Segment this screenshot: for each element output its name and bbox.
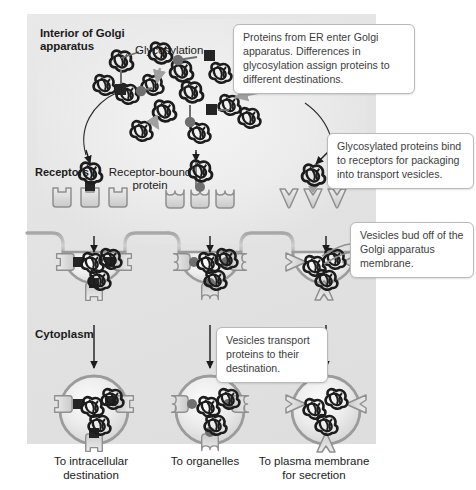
- callout-vesicles-bud-off: Vesicles bud off of the Golgi apparatus …: [350, 222, 474, 278]
- callout-proteins-enter-golgi: Proteins from ER enter Golgi apparatus. …: [233, 24, 415, 94]
- label-glycosylation: Glycosylation: [135, 44, 203, 57]
- destination-label-plasma-membrane: To plasma membrane for secretion: [252, 455, 376, 483]
- destination-label-organelles: To organelles: [158, 455, 252, 469]
- label-cytoplasm: Cytoplasm: [35, 328, 94, 341]
- label-receptors: Receptors: [35, 166, 89, 179]
- callout-vesicles-transport: Vesicles transport proteins to their des…: [216, 327, 328, 383]
- label-interior-of-golgi: Interior of Golgi apparatus: [40, 27, 125, 54]
- label-receptor-bound-protein: Receptor-bound protein: [98, 166, 202, 193]
- destination-label-intracellular: To intracellular destination: [29, 455, 153, 483]
- callout-proteins-bind-receptors: Glycosylated proteins bind to receptors …: [327, 133, 474, 189]
- figure-root: Interior of Golgi apparatus Glycosylatio…: [0, 0, 476, 490]
